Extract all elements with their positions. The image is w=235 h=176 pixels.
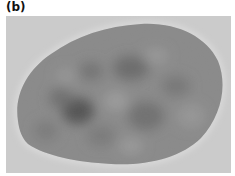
nucleus-micrograph xyxy=(6,16,231,173)
nucleus xyxy=(6,16,231,173)
panel-label: (b) xyxy=(6,0,26,14)
micrograph-frame xyxy=(6,16,231,173)
